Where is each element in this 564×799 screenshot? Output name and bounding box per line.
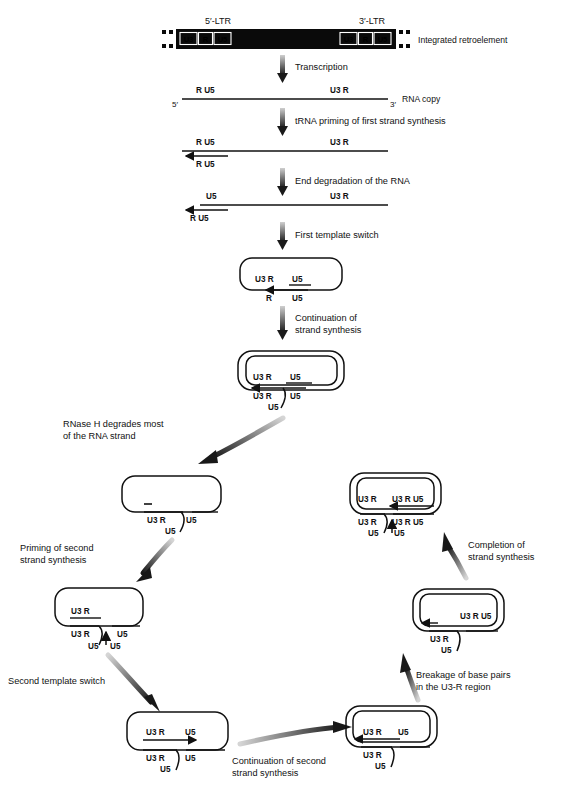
step-label-first-template-switch: First template switch (295, 230, 379, 240)
fts-inner-left: U3 R (255, 275, 274, 284)
completion-tail-left: U5 (368, 529, 379, 538)
prim2-tail-left: U5 (88, 642, 99, 651)
completion-tail-right: U5 (394, 529, 405, 538)
rna-copy-left-labels: R U5 (196, 86, 215, 95)
rna-copy-right-labels: U3 R (330, 86, 349, 95)
step-label-breakage-line2: in the U3-R region (416, 682, 491, 692)
ltr3-box-r: R (363, 35, 369, 44)
ltr3-label: 3′-LTR (359, 16, 386, 26)
completion-outer-left: U3 R (358, 518, 377, 527)
cont2-tail: U5 (375, 762, 386, 771)
enddeg-bottom-left-labels: R U5 (190, 214, 209, 223)
ltr5-boxes: U3 R U5 (180, 33, 231, 45)
sts-tail: U5 (160, 765, 171, 774)
rna-copy-3prime: 3′ (390, 100, 396, 109)
ltr3-box-u5: U5 (378, 35, 388, 44)
completion-inner-right: U3 R U5 (392, 495, 424, 504)
sts-inner-right: U5 (185, 728, 196, 737)
ltr5-box-r: R (203, 35, 209, 44)
breakage-inner-right: U3 R U5 (460, 612, 492, 621)
step-label-continuation-1-line2: strand synthesis (295, 325, 362, 335)
cont1-outer-right: U5 (290, 392, 301, 401)
rna-copy-caption: RNA copy (402, 94, 441, 104)
cont1-inner-right: U5 (290, 373, 301, 382)
completion-inner-left: U3 R (358, 495, 377, 504)
step-label-second-template-switch: Second template switch (8, 676, 105, 686)
fts-inner-right: U5 (292, 275, 303, 284)
diagram-canvas: 5′-LTR 3′-LTR U3 R U5 U3 R U5 (0, 0, 564, 799)
step-label-rnase-h-line1: RNase H degrades most (63, 419, 164, 429)
step-label-priming-second-line1: Priming of second (20, 543, 94, 553)
ltr5-box-u5: U5 (218, 35, 228, 44)
prim2-tail-right: U5 (110, 642, 121, 651)
breakage-outer-left: U3 R (430, 635, 449, 644)
cont1-tail: U5 (268, 403, 279, 412)
fts-outer-left: R (266, 294, 272, 303)
cont2-inner-left: U3 R (363, 728, 382, 737)
prim2-outer-left: U3 R (71, 630, 90, 639)
step-label-breakage-line1: Breakage of base pairs (416, 670, 511, 680)
breakage-tail: U5 (441, 646, 452, 655)
cont1-outer-left: U3 R (253, 392, 272, 401)
step-label-completion-line1: Completion of (468, 540, 525, 550)
sts-outer-right: U5 (185, 754, 196, 763)
enddeg-top-right-labels: U3 R (330, 192, 349, 201)
step-label-cont-second-line1: Continuation of second (232, 756, 326, 766)
prim2-inner-left: U3 R (71, 607, 90, 616)
step-label-priming-second-line2: strand synthesis (20, 555, 87, 565)
step-label-rnase-h-line2: of the RNA strand (63, 431, 136, 441)
ltr3-box-u3: U3 (344, 35, 354, 44)
enddeg-top-left-labels: U5 (206, 192, 217, 201)
step-label-transcription: Transcription (295, 62, 348, 72)
sts-outer-left: U3 R (146, 754, 165, 763)
prim2-outer-right: U5 (117, 630, 128, 639)
step-label-continuation-1-line1: Continuation of (295, 313, 357, 323)
sts-inner-left: U3 R (146, 728, 165, 737)
rnaseprod-tail: U5 (165, 527, 176, 536)
step-label-cont-second-line2: strand synthesis (232, 768, 299, 778)
rna-copy-5prime: 5′ (172, 100, 178, 109)
ltr3-boxes: U3 R U5 (340, 33, 391, 45)
trna-top-left-labels: R U5 (196, 138, 215, 147)
rnaseprod-outer-left: U3 R (147, 516, 166, 525)
step-label-trna-priming: tRNA priming of first strand synthesis (295, 116, 446, 126)
fts-outer-right: U5 (292, 294, 303, 303)
ltr5-box-u3: U3 (184, 35, 194, 44)
ltr5-label: 5′-LTR (205, 16, 232, 26)
cont2-outer-left: U3 R (363, 751, 382, 760)
rnaseprod-outer-right: U5 (186, 516, 197, 525)
trna-bottom-left-labels: R U5 (196, 160, 215, 169)
integrated-retroelement-caption: Integrated retroelement (418, 35, 508, 45)
trna-top-right-labels: U3 R (330, 138, 349, 147)
step-label-end-degradation: End degradation of the RNA (295, 176, 411, 186)
cont2-inner-right: U5 (398, 728, 409, 737)
step-label-completion-line2: strand synthesis (468, 552, 535, 562)
completion-outer-right: U3 R U5 (392, 518, 424, 527)
cont1-inner-left: U3 R (253, 373, 272, 382)
